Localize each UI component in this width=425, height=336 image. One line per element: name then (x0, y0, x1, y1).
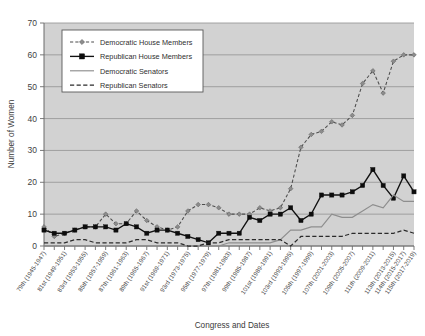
data-point-republican-house-members (134, 225, 138, 229)
data-point-republican-house-members (42, 228, 46, 232)
data-point-republican-house-members (350, 190, 354, 194)
legend-label: Democratic House Members (100, 38, 193, 47)
data-point-republican-house-members (412, 190, 416, 194)
data-point-republican-house-members (309, 212, 313, 216)
data-point-republican-house-members (340, 193, 344, 197)
data-point-republican-house-members (196, 238, 200, 242)
data-point-republican-house-members (381, 183, 385, 187)
data-point-republican-house-members (186, 234, 190, 238)
data-point-republican-house-members (237, 231, 241, 235)
data-point-republican-house-members (371, 167, 375, 171)
legend-label: Republican Senators (100, 81, 168, 90)
data-point-republican-house-members (165, 228, 169, 232)
data-point-republican-house-members (145, 231, 149, 235)
y-axis-tick-label: 20 (28, 177, 38, 187)
x-axis-title: Congress and Dates (195, 321, 270, 330)
data-point-republican-house-members (52, 231, 56, 235)
y-axis-tick-label: 40 (28, 114, 38, 124)
y-axis-title: Number of Women (7, 99, 16, 168)
data-point-republican-house-members (176, 231, 180, 235)
y-axis-tick-label: 60 (28, 50, 38, 60)
y-axis-tick-label: 10 (28, 209, 38, 219)
y-axis-tick-label: 70 (28, 18, 38, 28)
data-point-republican-house-members (361, 183, 365, 187)
data-point-republican-house-members (268, 212, 272, 216)
legend-label: Republican House Members (100, 52, 192, 61)
data-point-republican-house-members (402, 174, 406, 178)
data-point-republican-house-members (289, 206, 293, 210)
data-point-republican-house-members (278, 212, 282, 216)
data-point-republican-house-members (83, 225, 87, 229)
data-point-republican-house-members (227, 231, 231, 235)
legend-swatch-marker (79, 54, 84, 59)
chart-legend: Democratic House MembersRepublican House… (62, 30, 203, 92)
women-in-congress-line-chart: 010203040506070 79th (1945-1947)81st (19… (0, 0, 425, 336)
data-point-republican-house-members (217, 231, 221, 235)
data-point-republican-house-members (114, 228, 118, 232)
y-axis-tick-label: 50 (28, 82, 38, 92)
data-point-republican-house-members (155, 228, 159, 232)
y-axis-tick-label: 30 (28, 145, 38, 155)
legend-label: Democratic Senators (100, 67, 168, 76)
data-point-republican-house-members (93, 225, 97, 229)
data-point-republican-house-members (258, 218, 262, 222)
data-point-republican-house-members (104, 225, 108, 229)
y-axis-tick-label: 0 (32, 241, 37, 251)
data-point-republican-house-members (247, 215, 251, 219)
data-point-republican-house-members (73, 228, 77, 232)
data-point-republican-house-members (319, 193, 323, 197)
data-point-republican-house-members (124, 222, 128, 226)
data-point-republican-house-members (330, 193, 334, 197)
data-point-republican-house-members (62, 231, 66, 235)
data-point-republican-house-members (299, 218, 303, 222)
chart-container: 010203040506070 79th (1945-1947)81st (19… (0, 0, 425, 336)
